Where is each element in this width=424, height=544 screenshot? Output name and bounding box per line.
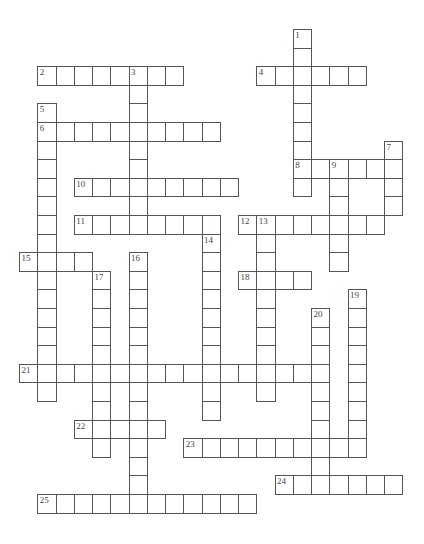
crossword-cell[interactable]: 18: [238, 271, 257, 291]
crossword-cell[interactable]: 6: [37, 122, 56, 142]
crossword-cell[interactable]: 20: [311, 308, 330, 328]
crossword-cell[interactable]: [348, 327, 367, 347]
crossword-cell[interactable]: 12: [238, 215, 257, 235]
crossword-cell[interactable]: [37, 364, 56, 384]
crossword-cell[interactable]: [183, 178, 202, 198]
crossword-cell[interactable]: [238, 364, 257, 384]
crossword-cell[interactable]: [110, 364, 129, 384]
crossword-cell[interactable]: [256, 234, 275, 254]
crossword-cell[interactable]: [129, 457, 148, 477]
crossword-cell[interactable]: [202, 289, 221, 309]
crossword-cell[interactable]: [147, 215, 166, 235]
crossword-cell[interactable]: [37, 234, 56, 254]
crossword-cell[interactable]: [256, 364, 275, 384]
crossword-cell[interactable]: [256, 289, 275, 309]
crossword-cell[interactable]: 8: [293, 159, 312, 179]
crossword-cell[interactable]: [366, 159, 385, 179]
crossword-cell[interactable]: [293, 215, 312, 235]
crossword-cell[interactable]: [37, 308, 56, 328]
crossword-cell[interactable]: 1: [293, 29, 312, 49]
crossword-cell[interactable]: [311, 345, 330, 365]
crossword-cell[interactable]: [129, 420, 148, 440]
crossword-cell[interactable]: [74, 494, 93, 514]
crossword-cell[interactable]: [348, 401, 367, 421]
crossword-cell[interactable]: [129, 364, 148, 384]
crossword-cell[interactable]: [147, 494, 166, 514]
crossword-cell[interactable]: [348, 66, 367, 86]
crossword-cell[interactable]: [293, 438, 312, 458]
crossword-cell[interactable]: [311, 457, 330, 477]
crossword-cell[interactable]: [37, 159, 56, 179]
crossword-cell[interactable]: [256, 345, 275, 365]
crossword-cell[interactable]: [92, 308, 111, 328]
crossword-cell[interactable]: [329, 66, 348, 86]
crossword-cell[interactable]: [129, 401, 148, 421]
crossword-cell[interactable]: [147, 364, 166, 384]
crossword-cell[interactable]: 23: [183, 438, 202, 458]
crossword-cell[interactable]: [110, 420, 129, 440]
crossword-cell[interactable]: [202, 345, 221, 365]
crossword-cell[interactable]: [202, 364, 221, 384]
crossword-cell[interactable]: [256, 327, 275, 347]
crossword-cell[interactable]: [147, 122, 166, 142]
crossword-cell[interactable]: 15: [19, 252, 38, 272]
crossword-cell[interactable]: 17: [92, 271, 111, 291]
crossword-cell[interactable]: [311, 401, 330, 421]
crossword-cell[interactable]: [256, 438, 275, 458]
crossword-cell[interactable]: [147, 66, 166, 86]
crossword-cell[interactable]: [165, 178, 184, 198]
crossword-cell[interactable]: [129, 103, 148, 123]
crossword-cell[interactable]: [129, 141, 148, 161]
crossword-cell[interactable]: [37, 141, 56, 161]
crossword-cell[interactable]: [37, 327, 56, 347]
crossword-cell[interactable]: [384, 196, 403, 216]
crossword-cell[interactable]: 11: [74, 215, 93, 235]
crossword-cell[interactable]: [348, 438, 367, 458]
crossword-cell[interactable]: [92, 364, 111, 384]
crossword-cell[interactable]: [329, 196, 348, 216]
crossword-cell[interactable]: [129, 382, 148, 402]
crossword-cell[interactable]: [311, 159, 330, 179]
crossword-cell[interactable]: [56, 66, 75, 86]
crossword-cell[interactable]: [129, 178, 148, 198]
crossword-cell[interactable]: [202, 382, 221, 402]
crossword-cell[interactable]: [220, 178, 239, 198]
crossword-cell[interactable]: 13: [256, 215, 275, 235]
crossword-cell[interactable]: [165, 122, 184, 142]
crossword-cell[interactable]: [110, 66, 129, 86]
crossword-cell[interactable]: [329, 178, 348, 198]
crossword-cell[interactable]: 21: [19, 364, 38, 384]
crossword-cell[interactable]: [311, 475, 330, 495]
crossword-cell[interactable]: [129, 215, 148, 235]
crossword-cell[interactable]: [92, 289, 111, 309]
crossword-cell[interactable]: [275, 271, 294, 291]
crossword-cell[interactable]: [384, 475, 403, 495]
crossword-cell[interactable]: [220, 494, 239, 514]
crossword-cell[interactable]: [183, 215, 202, 235]
crossword-cell[interactable]: [311, 215, 330, 235]
crossword-cell[interactable]: [37, 382, 56, 402]
crossword-cell[interactable]: [74, 252, 93, 272]
crossword-cell[interactable]: [366, 215, 385, 235]
crossword-cell[interactable]: [202, 438, 221, 458]
crossword-cell[interactable]: [220, 438, 239, 458]
crossword-cell[interactable]: [202, 308, 221, 328]
crossword-cell[interactable]: [183, 494, 202, 514]
crossword-cell[interactable]: [202, 122, 221, 142]
crossword-cell[interactable]: [311, 66, 330, 86]
crossword-cell[interactable]: [129, 494, 148, 514]
crossword-cell[interactable]: [110, 215, 129, 235]
crossword-cell[interactable]: [92, 438, 111, 458]
crossword-cell[interactable]: [329, 252, 348, 272]
crossword-cell[interactable]: [293, 475, 312, 495]
crossword-cell[interactable]: 7: [384, 141, 403, 161]
crossword-cell[interactable]: [348, 345, 367, 365]
crossword-cell[interactable]: [92, 494, 111, 514]
crossword-cell[interactable]: [129, 85, 148, 105]
crossword-cell[interactable]: [129, 289, 148, 309]
crossword-cell[interactable]: [275, 66, 294, 86]
crossword-cell[interactable]: [165, 494, 184, 514]
crossword-cell[interactable]: 24: [275, 475, 294, 495]
crossword-cell[interactable]: [348, 364, 367, 384]
crossword-cell[interactable]: [147, 178, 166, 198]
